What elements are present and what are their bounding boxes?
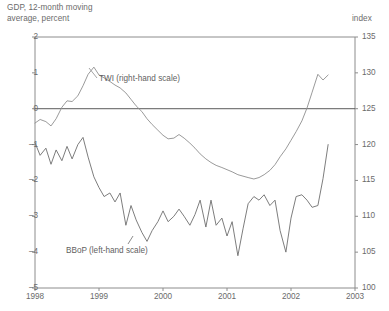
- y2-axis-tick-label: 100: [362, 283, 376, 292]
- y-axis-tick-label: 0: [33, 104, 38, 113]
- bbop-line: [35, 137, 328, 255]
- x-axis-tick-label: 2000: [154, 292, 172, 301]
- y2-axis-tick-label: 120: [362, 140, 376, 149]
- y-axis-tick-label: 1: [33, 68, 38, 77]
- twi-series-label: TWI (right-hand scale): [99, 74, 180, 83]
- y2-axis-tick-label: 125: [362, 104, 376, 113]
- bbop-series-label: BBoP (left-hand scale): [66, 246, 148, 255]
- y2-axis-tick-label: 115: [362, 175, 375, 184]
- x-axis-tick-label: 2001: [218, 292, 236, 301]
- x-axis-tick-label: 1998: [26, 292, 44, 301]
- y2-axis-tick-label: 110: [362, 211, 375, 220]
- y2-axis-tick-label: 105: [362, 247, 376, 256]
- chart-figure: GDP, 12-month moving average, percent in…: [0, 0, 389, 311]
- y-axis-tick-label: –2: [29, 175, 38, 184]
- x-axis-tick-label: 2002: [282, 292, 300, 301]
- twi-line: [35, 67, 328, 179]
- y-axis-tick-label: –4: [29, 247, 38, 256]
- y-axis-tick-label: 2: [33, 32, 38, 41]
- y-axis-tick-label: –5: [29, 283, 38, 292]
- y2-axis-tick-label: 130: [362, 68, 376, 77]
- x-axis-tick-label: 2003: [346, 292, 364, 301]
- y2-axis-tick-label: 135: [362, 32, 376, 41]
- x-axis-tick-label: 1999: [90, 292, 108, 301]
- y-axis-tick-label: –3: [29, 211, 38, 220]
- y-axis-tick-label: –1: [29, 140, 38, 149]
- plot-canvas: [0, 0, 389, 311]
- bbop-label-leader: [128, 236, 133, 244]
